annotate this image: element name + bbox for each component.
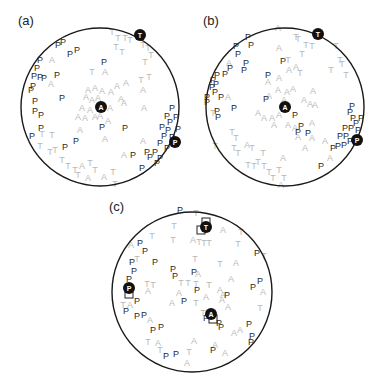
letter-p-dark: P — [130, 150, 136, 160]
letter-a-light: A — [222, 348, 228, 358]
panel-a: TTTTTTTTTTTTTAAAAAAAAAAAAAAAAAAAAAAAAAAA… — [21, 27, 181, 189]
letter-p-dark: P — [191, 267, 197, 277]
letter-p-dark: P — [74, 45, 80, 55]
letter-a-light: A — [261, 113, 267, 123]
letter-p-dark: P — [173, 112, 179, 122]
letter-a-light: A — [128, 240, 134, 250]
letter-a-light: A — [276, 43, 282, 53]
letter-t-light: T — [251, 161, 257, 171]
letter-p-dark: P — [181, 296, 187, 306]
letter-p-dark: P — [62, 142, 68, 152]
letter-p-dark: P — [246, 319, 252, 329]
letter-t-light: T — [127, 35, 133, 45]
letter-a-light: A — [107, 103, 113, 113]
letter-p-dark: P — [141, 310, 147, 320]
marker-a: A — [205, 308, 217, 320]
letter-p-dark: P — [204, 97, 210, 107]
letter-a-light: A — [302, 143, 308, 153]
letter-a-light: A — [141, 103, 147, 113]
marker-p: P — [123, 282, 135, 294]
letter-t-light: T — [343, 70, 349, 80]
letter-p-dark: P — [172, 271, 178, 281]
letter-t-light: T — [297, 68, 303, 78]
letter-p-dark: P — [134, 311, 140, 321]
letter-a-light: A — [121, 150, 127, 160]
letter-a-light: A — [101, 172, 107, 182]
letter-a-light: A — [92, 83, 98, 93]
letter-a-light: A — [49, 55, 55, 65]
letter-p-dark: P — [235, 49, 241, 59]
letter-p-dark: P — [101, 57, 107, 67]
letter-p-dark: P — [99, 122, 105, 132]
letter-a-light: A — [285, 120, 291, 130]
letter-p-dark: P — [152, 257, 158, 267]
letter-a-light: A — [191, 336, 197, 346]
panel-c: TTTTATTTATTATTTATAATATTTTTAAAAAAATATTTAA… — [112, 205, 272, 372]
letter-p-dark: P — [210, 345, 216, 355]
letter-t-light: T — [217, 259, 223, 269]
letter-t-light: T — [309, 41, 315, 51]
letter-t-light: T — [37, 141, 43, 151]
letter-a-light: A — [140, 136, 146, 146]
letter-p-dark: P — [280, 56, 286, 66]
letter-a-light: A — [310, 86, 316, 96]
letter-t-light: T — [110, 167, 116, 177]
letter-a-light: A — [271, 120, 277, 130]
letter-p-dark: P — [173, 349, 179, 359]
letter-a-light: A — [75, 112, 81, 122]
letter-p-dark: P — [248, 337, 254, 347]
letter-p-dark: P — [150, 325, 156, 335]
letter-a-light: A — [322, 136, 328, 146]
letter-t-light: T — [49, 130, 55, 140]
letter-p-dark: P — [231, 103, 237, 113]
letter-a-light: A — [85, 173, 91, 183]
letter-a-light: A — [79, 161, 85, 171]
letter-t-light: T — [235, 148, 241, 158]
letter-p-dark: P — [142, 246, 148, 256]
letter-t-light: T — [206, 238, 212, 248]
letter-p-dark: P — [241, 65, 247, 75]
letter-t-light: T — [339, 59, 345, 69]
letter-t-light: T — [192, 254, 198, 264]
letter-a-light: A — [147, 315, 153, 325]
letter-p-dark: P — [292, 110, 298, 120]
letter-t-light: T — [138, 75, 144, 85]
letter-p-dark: P — [154, 158, 160, 168]
letter-p-dark: P — [29, 131, 35, 141]
letter-p-dark: P — [248, 40, 254, 50]
letter-a-light: A — [231, 328, 237, 338]
letter-p-dark: P — [122, 123, 128, 133]
letter-t-light: T — [186, 347, 192, 357]
scatter-figure: TTTTTTTTTTTTTAAAAAAAAAAAAAAAAAAAAAAAAAAA… — [0, 0, 381, 390]
letter-p-dark: P — [59, 93, 65, 103]
svg-text:P: P — [173, 139, 178, 146]
letter-p-dark: P — [305, 128, 311, 138]
letter-p-dark: P — [194, 285, 200, 295]
letter-t-light: T — [328, 65, 334, 75]
letter-a-light: A — [48, 79, 54, 89]
marker-t: T — [200, 221, 212, 233]
letter-p-dark: P — [67, 49, 73, 59]
svg-text:A: A — [98, 104, 103, 111]
letter-p-dark: P — [28, 85, 34, 95]
letter-a-light: A — [82, 113, 88, 123]
letter-p-dark: P — [139, 163, 145, 173]
letter-p-dark: P — [175, 124, 181, 134]
letter-t-light: T — [150, 280, 156, 290]
letter-a-light: A — [102, 67, 108, 77]
letter-t-light: T — [149, 231, 155, 241]
letter-t-light: T — [142, 57, 148, 67]
svg-text:A: A — [282, 104, 287, 111]
marker-t: T — [312, 28, 324, 40]
letter-a-light: A — [225, 92, 231, 102]
letter-t-light: T — [249, 143, 255, 153]
letter-a-light: A — [244, 140, 250, 150]
letter-a-light: A — [169, 298, 175, 308]
marker-p: P — [351, 134, 363, 146]
letter-a-light: A — [260, 287, 266, 297]
letter-t-light: T — [65, 161, 71, 171]
letter-t-light: T — [206, 280, 212, 290]
svg-text:P: P — [127, 285, 132, 292]
letter-a-light: A — [237, 325, 243, 335]
letter-t-light: T — [178, 278, 184, 288]
